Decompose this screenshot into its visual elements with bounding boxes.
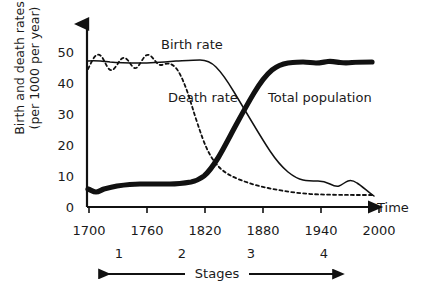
series-curve-death-rate [88,55,372,195]
demographic-transition-chart: Birth and death rates (per 1000 per year… [0,0,423,302]
series-curve-total-population [88,61,372,192]
plot-canvas [0,0,423,302]
